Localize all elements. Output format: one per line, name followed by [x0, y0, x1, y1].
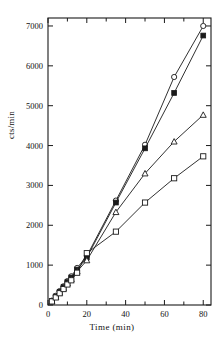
y-tick-label: 2000 [26, 220, 43, 230]
y-axis-label: cts/min [6, 111, 16, 139]
data-point-open-square [75, 270, 80, 275]
data-point-open-square [172, 176, 177, 181]
line-chart: 01000200030004000500060007000020406080 [0, 0, 224, 343]
axis-ticks [48, 18, 211, 305]
figure-panel: 01000200030004000500060007000020406080 c… [0, 0, 224, 343]
y-tick-label: 6000 [26, 61, 43, 71]
data-point-filled-square [143, 146, 148, 151]
data-point-open-square [113, 229, 118, 234]
data-point-filled-square [172, 91, 177, 96]
x-axis-label: Time (min) [0, 322, 224, 332]
series-line [52, 36, 203, 301]
data-point-open-circle [201, 23, 206, 28]
y-tick-label: 5000 [26, 101, 43, 111]
data-point-filled-square [201, 33, 206, 38]
x-tick-label: 40 [121, 309, 130, 319]
y-tick-label: 3000 [26, 180, 43, 190]
x-tick-label: 0 [46, 309, 50, 319]
y-axis-label-wrap: cts/min [6, 95, 20, 155]
x-tick-label: 80 [199, 309, 208, 319]
data-point-open-square [201, 154, 206, 159]
data-point-open-square [84, 251, 89, 256]
y-tick-label: 7000 [26, 21, 43, 31]
x-tick-label: 60 [160, 309, 169, 319]
data-point-open-circle [172, 74, 177, 79]
series-line [52, 26, 203, 301]
data-series-group [49, 23, 206, 304]
y-tick-label: 1000 [26, 260, 43, 270]
data-point-open-triangle [200, 112, 206, 117]
y-tick-label: 4000 [26, 141, 43, 151]
data-point-filled-square [114, 200, 119, 205]
data-point-open-square [69, 278, 74, 283]
data-point-open-square [142, 200, 147, 205]
y-tick-label: 0 [39, 300, 43, 310]
plot-frame [48, 18, 211, 305]
x-tick-label: 20 [83, 309, 92, 319]
